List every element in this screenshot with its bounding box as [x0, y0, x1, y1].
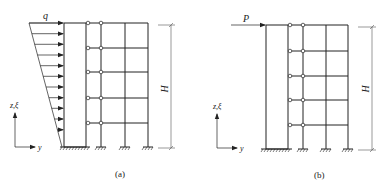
load-label-p: P — [242, 13, 249, 24]
hinges — [288, 23, 305, 127]
fixed-supports — [261, 149, 353, 152]
fixed-supports — [60, 147, 153, 150]
load-label-q: q — [43, 10, 48, 21]
triangular-load — [29, 23, 62, 147]
axis-label-z: z,ξ — [9, 101, 19, 110]
load-arrows — [29, 23, 63, 130]
axes — [217, 114, 237, 148]
height-label: H — [360, 85, 371, 94]
shear-wall — [266, 25, 288, 149]
panel-a: q — [9, 10, 175, 179]
axis-label-z: z,ξ — [212, 102, 222, 111]
frame — [288, 25, 348, 149]
caption-b: (b) — [314, 170, 325, 180]
shear-wall — [64, 23, 86, 147]
frame — [86, 23, 148, 147]
axis-label-y: y — [239, 144, 244, 153]
hinges — [86, 21, 103, 125]
axis-label-y: y — [37, 143, 42, 152]
axes — [15, 113, 35, 147]
panel-b: P — [212, 13, 376, 180]
caption-a: (a) — [115, 169, 125, 179]
wall-frame-diagram: q — [0, 0, 385, 190]
height-label: H — [159, 85, 170, 94]
